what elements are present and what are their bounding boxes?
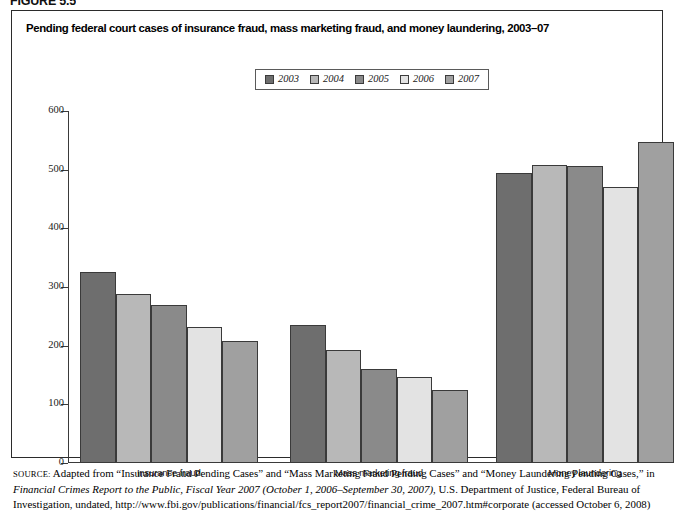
- legend-label: 2004: [323, 74, 344, 85]
- y-tick-label: 200: [48, 339, 64, 350]
- bar: [151, 305, 187, 463]
- bar: [496, 173, 532, 463]
- y-tick-label: 600: [48, 104, 64, 115]
- legend-swatch-icon: [400, 75, 409, 84]
- source-label: SOURCE:: [13, 469, 51, 479]
- legend-label: 2007: [458, 74, 479, 85]
- legend-swatch-icon: [355, 75, 364, 84]
- bar: [222, 341, 258, 463]
- bar: [187, 327, 223, 463]
- y-tick-label: 500: [48, 163, 64, 174]
- chart-legend: 20032004200520062007: [255, 69, 489, 90]
- legend-item-2007: 2007: [445, 74, 479, 85]
- bar: [361, 369, 397, 463]
- legend-swatch-icon: [310, 75, 319, 84]
- bar: [326, 350, 362, 463]
- bar: [532, 165, 568, 463]
- legend-item-2005: 2005: [355, 74, 389, 85]
- plot-area: 0100200300400500600 Insurance fraudMass …: [68, 111, 654, 463]
- source-text-italic: Financial Crimes Report to the Public, F…: [13, 483, 433, 495]
- figure-panel: Pending federal court cases of insurance…: [11, 10, 663, 458]
- bar: [567, 166, 603, 463]
- source-text-first: Adapted from “Insurance Fraud Pending Ca…: [51, 467, 655, 479]
- y-tick-label: 300: [48, 280, 64, 291]
- bar: [432, 390, 468, 463]
- legend-item-2004: 2004: [310, 74, 344, 85]
- bar: [290, 325, 326, 463]
- bar: [116, 294, 152, 463]
- legend-label: 2003: [278, 74, 299, 85]
- legend-item-2003: 2003: [265, 74, 299, 85]
- legend-label: 2005: [368, 74, 389, 85]
- figure-title: Pending federal court cases of insurance…: [26, 22, 652, 34]
- legend-swatch-icon: [445, 75, 454, 84]
- source-note: SOURCE: Adapted from “Insurance Fraud Pe…: [13, 466, 663, 513]
- legend-swatch-icon: [265, 75, 274, 84]
- y-axis-line: [68, 111, 69, 463]
- legend-label: 2006: [413, 74, 434, 85]
- legend-item-2006: 2006: [400, 74, 434, 85]
- bar: [638, 142, 674, 463]
- bar: [397, 377, 433, 463]
- y-tick-label: 400: [48, 221, 64, 232]
- y-tick-label: 100: [48, 397, 64, 408]
- bar: [603, 187, 639, 463]
- figure-number: FIGURE 5.5: [10, 0, 76, 6]
- bar: [80, 272, 116, 463]
